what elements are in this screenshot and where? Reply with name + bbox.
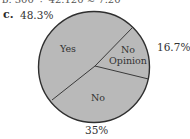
slice-label-no: No xyxy=(91,92,105,103)
percent-no: 35% xyxy=(85,124,108,136)
slice-label-yes: Yes xyxy=(59,43,76,54)
percent-no-opinion: 16.7% xyxy=(157,41,190,53)
percent-yes: 48.3% xyxy=(20,9,53,21)
slice-label-noopinion-1: No xyxy=(121,44,135,55)
slice-label-noopinion-2: Opinion xyxy=(109,55,147,66)
